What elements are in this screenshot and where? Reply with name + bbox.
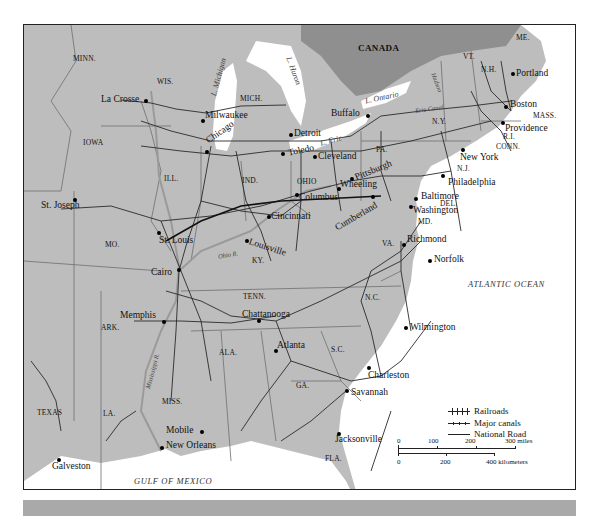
city-mobile: Mobile [166, 426, 193, 436]
label-ark: ARK. [101, 324, 120, 332]
canal-symbol-icon [448, 419, 470, 427]
label-mich: MICH. [240, 95, 262, 103]
city-milwaukee: Milwaukee [205, 111, 248, 121]
legend-railroads-label: Railroads [474, 406, 509, 416]
city-new-york: New York [460, 153, 499, 163]
label-ala: ALA. [219, 349, 237, 357]
label-ohio: OHIO [297, 178, 317, 186]
label-minn: MINN. [73, 55, 96, 63]
label-ny: N.Y. [432, 118, 446, 126]
legend-canals-label: Major canals [474, 418, 521, 428]
label-me: ME. [516, 34, 530, 42]
label-sc: S.C. [331, 346, 345, 354]
city-washington: Washington [413, 206, 458, 216]
label-canada: CANADA [358, 44, 399, 53]
legend-canals: Major canals [448, 417, 521, 428]
city-atlanta: Atlanta [277, 341, 305, 351]
city-charleston: Charleston [368, 371, 409, 381]
city-cairo: Cairo [151, 268, 172, 278]
scale-miles-100: 100 [428, 438, 439, 445]
scale-miles-0: 0 [397, 438, 401, 445]
label-ill: ILL. [164, 175, 178, 183]
label-wis: WIS. [157, 78, 173, 86]
city-cleveland: Cleveland [318, 152, 357, 162]
scale-km-200: 200 [440, 459, 451, 466]
city-buffalo: Buffalo [331, 109, 360, 119]
label-nh: N.H. [481, 66, 496, 74]
city-chattanooga: Chattanooga [242, 310, 290, 320]
label-md: MD. [418, 218, 433, 226]
city-boston: Boston [510, 100, 537, 110]
scale-km-0: 0 [397, 459, 401, 466]
label-mass: MASS. [533, 112, 556, 120]
city-columbus: Columbus [299, 193, 338, 203]
city-st-joseph: St. Joseph [41, 201, 80, 211]
city-savannah: Savannah [351, 388, 388, 398]
city-providence: Providence [505, 124, 548, 134]
city-memphis: Memphis [120, 311, 156, 321]
city-philadelphia: Philadelphia [448, 178, 496, 188]
railroad-symbol-icon [448, 407, 470, 415]
label-atlantic-ocean: ATLANTIC OCEAN [468, 280, 545, 289]
label-va: VA. [382, 240, 394, 248]
city-norfolk: Norfolk [434, 255, 464, 265]
caption-bar [23, 500, 576, 516]
label-iowa: IOWA [83, 139, 103, 147]
label-mo: MO. [105, 241, 120, 249]
label-gulf-of-mexico: GULF OF MEXICO [134, 477, 212, 486]
city-galveston: Galveston [52, 462, 91, 472]
label-miss: MISS. [162, 398, 182, 406]
label-la: LA. [103, 410, 115, 418]
label-texas: TEXAS [37, 409, 62, 417]
city-baltimore: Baltimore [421, 192, 459, 202]
scale-km-400: 400 kilometers [486, 459, 528, 466]
label-vt: VT. [463, 53, 475, 61]
city-cincinnati: Cincinnati [271, 212, 311, 222]
city-richmond: Richmond [407, 235, 447, 245]
label-conn: CONN. [496, 143, 520, 151]
label-nc: N.C. [365, 294, 380, 302]
label-fla: FLA. [325, 455, 342, 463]
city-portland: Portland [516, 69, 548, 79]
label-ky: KY. [252, 257, 264, 265]
city-new-orleans: New Orleans [166, 441, 216, 451]
label-ga: GA. [296, 382, 309, 390]
city-la-crosse: La Crosse [101, 95, 139, 105]
city-st-louis: St. Louis [159, 236, 193, 246]
label-ind: IND. [242, 177, 258, 185]
scale-miles-300: 300 miles [505, 438, 532, 445]
label-pa: PA. [376, 146, 387, 154]
legend-railroads: Railroads [448, 405, 509, 416]
label-nj: N.J. [457, 165, 470, 173]
label-ri: R.I. [503, 133, 515, 141]
city-detroit: Detroit [294, 129, 321, 139]
city-wilmington: Wilmington [410, 323, 456, 333]
city-jacksonville: Jacksonville [335, 435, 382, 445]
label-tenn: TENN. [243, 293, 266, 301]
scale-miles-200: 200 [465, 438, 476, 445]
city-wheeling: Wheeling [340, 180, 377, 190]
